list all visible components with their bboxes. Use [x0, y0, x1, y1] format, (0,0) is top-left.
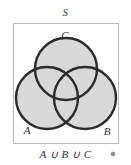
venn-diagram-figure: S C A B A ∪ B ∪ C — [0, 0, 131, 165]
set-label-a: A — [21, 125, 33, 136]
venn-shaded-union — [16, 38, 116, 129]
set-label-b: B — [101, 126, 113, 137]
set-label-c: C — [58, 30, 72, 41]
universal-set-label: S — [0, 6, 131, 18]
